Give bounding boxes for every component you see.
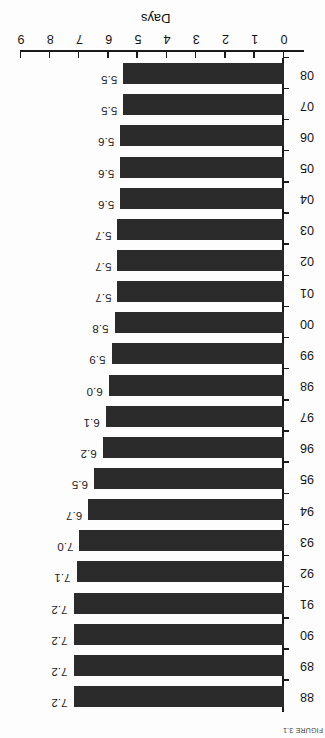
figure-caption: FIGURE 3.1 bbox=[283, 727, 323, 734]
value-axis-label-4: 4 bbox=[159, 32, 175, 46]
category-label-92: 92 bbox=[294, 566, 320, 580]
bar-value-label: 7.0 bbox=[57, 541, 73, 553]
value-axis-title: Days bbox=[141, 11, 171, 26]
category-tick bbox=[284, 461, 289, 462]
bar-value-label: 6.1 bbox=[83, 417, 99, 429]
category-label-89: 89 bbox=[294, 659, 320, 673]
bar-value-label: 5.6 bbox=[98, 168, 114, 180]
category-tick bbox=[284, 57, 289, 58]
bar-value-label: 7.2 bbox=[51, 697, 67, 709]
bar-row: 7.2 bbox=[21, 681, 284, 712]
plot-area: 7.27.27.27.27.17.06.76.56.26.16.05.95.85… bbox=[21, 58, 284, 712]
category-label-07: 07 bbox=[294, 99, 320, 113]
bar bbox=[117, 219, 284, 240]
category-tick bbox=[284, 430, 289, 431]
bar bbox=[117, 250, 284, 271]
bar bbox=[88, 499, 284, 520]
value-tick bbox=[49, 51, 50, 58]
value-axis-label-0: 0 bbox=[276, 32, 292, 46]
bar-value-label: 7.2 bbox=[51, 666, 67, 678]
category-tick bbox=[284, 368, 289, 369]
bar-row: 7.2 bbox=[21, 619, 284, 650]
value-axis-label-8: 8 bbox=[42, 32, 58, 46]
category-tick bbox=[284, 275, 289, 276]
value-axis-label-3: 3 bbox=[188, 32, 204, 46]
value-tick bbox=[166, 51, 167, 58]
bar bbox=[74, 655, 284, 676]
category-tick bbox=[284, 306, 289, 307]
bar-row: 5.5 bbox=[21, 58, 284, 89]
category-label-96: 96 bbox=[294, 441, 320, 455]
value-tick bbox=[283, 51, 284, 58]
bar-value-label: 5.8 bbox=[92, 323, 108, 335]
value-tick bbox=[20, 51, 21, 58]
category-tick bbox=[284, 679, 289, 680]
category-tick bbox=[284, 648, 289, 649]
category-tick bbox=[284, 555, 289, 556]
bar bbox=[123, 94, 284, 115]
category-label-94: 94 bbox=[294, 504, 320, 518]
value-axis-label-7: 7 bbox=[71, 32, 87, 46]
bar-row: 6.1 bbox=[21, 401, 284, 432]
value-tick bbox=[224, 51, 225, 58]
bar bbox=[112, 343, 284, 364]
bar bbox=[117, 281, 284, 302]
value-axis-label-6: 6 bbox=[101, 32, 117, 46]
bar bbox=[79, 530, 284, 551]
category-tick bbox=[284, 524, 289, 525]
category-tick bbox=[284, 88, 289, 89]
bar-row: 7.1 bbox=[21, 556, 284, 587]
bar-value-label: 7.2 bbox=[51, 635, 67, 647]
category-tick bbox=[284, 617, 289, 618]
category-tick bbox=[284, 119, 289, 120]
bar-value-label: 5.6 bbox=[98, 136, 114, 148]
bar bbox=[106, 406, 284, 427]
bar bbox=[120, 188, 284, 209]
bar bbox=[74, 624, 284, 645]
bar-row: 6.2 bbox=[21, 432, 284, 463]
bar-value-label: 7.1 bbox=[54, 572, 70, 584]
value-tick bbox=[137, 51, 138, 58]
bar-row: 7.0 bbox=[21, 525, 284, 556]
category-label-02: 02 bbox=[294, 254, 320, 268]
value-axis-line bbox=[20, 50, 304, 52]
value-tick bbox=[78, 51, 79, 58]
category-tick bbox=[284, 212, 289, 213]
category-label-91: 91 bbox=[294, 597, 320, 611]
category-label-88: 88 bbox=[294, 690, 320, 704]
category-label-05: 05 bbox=[294, 161, 320, 175]
bar-value-label: 6.7 bbox=[66, 510, 82, 522]
bar bbox=[77, 561, 284, 582]
figure-rotator: 7.27.27.27.27.17.06.76.56.26.16.05.95.85… bbox=[0, 0, 325, 738]
value-tick bbox=[253, 51, 254, 58]
bar-value-label: 6.0 bbox=[86, 386, 102, 398]
category-tick bbox=[284, 243, 289, 244]
category-label-93: 93 bbox=[294, 535, 320, 549]
category-tick bbox=[284, 150, 289, 151]
value-axis-label-5: 5 bbox=[130, 32, 146, 46]
category-label-03: 03 bbox=[294, 223, 320, 237]
bar bbox=[74, 593, 284, 614]
category-label-01: 01 bbox=[294, 286, 320, 300]
bar-value-label: 5.9 bbox=[89, 354, 105, 366]
bar-value-label: 5.7 bbox=[95, 230, 111, 242]
bar bbox=[109, 375, 284, 396]
bar-row: 5.6 bbox=[21, 151, 284, 182]
bar bbox=[94, 468, 284, 489]
bar-row: 6.0 bbox=[21, 369, 284, 400]
category-label-95: 95 bbox=[294, 472, 320, 486]
category-label-00: 00 bbox=[294, 317, 320, 331]
category-tick bbox=[284, 399, 289, 400]
category-label-97: 97 bbox=[294, 410, 320, 424]
value-tick bbox=[195, 51, 196, 58]
category-tick bbox=[284, 586, 289, 587]
bar-value-label: 5.6 bbox=[98, 199, 114, 211]
bar-row: 6.7 bbox=[21, 494, 284, 525]
bar-chart-figure: 7.27.27.27.27.17.06.76.56.26.16.05.95.85… bbox=[0, 0, 325, 738]
bar-value-label: 5.5 bbox=[101, 74, 117, 86]
category-label-98: 98 bbox=[294, 379, 320, 393]
bar-row: 7.2 bbox=[21, 650, 284, 681]
bar-value-label: 5.5 bbox=[101, 105, 117, 117]
value-axis-label-2: 2 bbox=[218, 32, 234, 46]
bar bbox=[115, 312, 284, 333]
